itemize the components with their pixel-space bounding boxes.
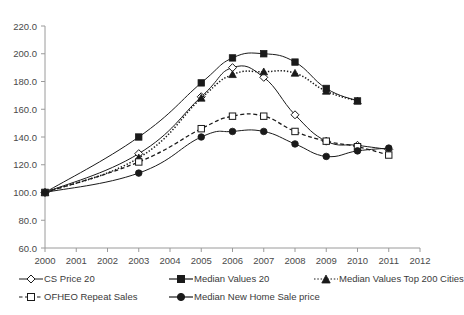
x-tick-label: 2005 <box>191 255 212 266</box>
marker-filled-square <box>292 59 298 65</box>
marker-open-square <box>136 159 142 165</box>
legend-row-2: OFHEO Repeat Sales Median New Home Sale … <box>18 290 320 304</box>
chart-legend: CS Price 20 Median Values 20 Median Valu… <box>0 268 431 315</box>
legend-item-cs-price-20[interactable]: CS Price 20 <box>18 272 168 286</box>
marker-filled-square <box>229 55 235 61</box>
legend-item-ofheo-repeat-sales[interactable]: OFHEO Repeat Sales <box>18 290 168 304</box>
marker-filled-circle <box>323 153 330 160</box>
legend-key-filled-triangle-icon <box>313 273 339 285</box>
marker-filled-circle <box>198 134 205 141</box>
x-tick-label: 2006 <box>222 255 243 266</box>
marker-filled-circle <box>135 170 142 177</box>
marker-open-square <box>386 152 392 158</box>
series-line <box>45 53 358 193</box>
x-tick-label: 2000 <box>34 255 55 266</box>
marker-filled-circle <box>260 128 267 135</box>
marker-filled-circle <box>354 148 361 155</box>
y-tick-label: 120.0 <box>13 159 37 170</box>
marker-open-square <box>198 125 204 131</box>
y-tick-label: 200.0 <box>13 48 37 59</box>
legend-key-filled-circle-icon <box>168 291 194 303</box>
legend-item-median-values-top-200-cities[interactable]: Median Values Top 200 Cities <box>313 272 464 286</box>
legend-label: CS Price 20 <box>44 273 95 285</box>
legend-key-open-diamond-icon <box>18 273 44 285</box>
legend-row-1: CS Price 20 Median Values 20 Median Valu… <box>18 272 464 286</box>
x-tick-label: 2002 <box>97 255 118 266</box>
y-tick-label: 160.0 <box>13 104 37 115</box>
y-tick-label: 140.0 <box>13 132 37 143</box>
legend-label: OFHEO Repeat Sales <box>44 291 137 303</box>
marker-filled-circle <box>42 189 49 196</box>
marker-open-square <box>323 138 329 144</box>
marker-filled-triangle <box>260 68 268 75</box>
legend-key-open-square-icon <box>18 291 44 303</box>
y-tick-label: 180.0 <box>13 76 37 87</box>
series-4 <box>42 128 392 196</box>
legend-label: Median Values 20 <box>194 273 269 285</box>
y-tick-label: 220.0 <box>13 21 37 32</box>
marker-filled-square <box>198 80 204 86</box>
x-tick-label: 2011 <box>379 255 399 266</box>
y-tick-label: 80.0 <box>19 215 38 226</box>
marker-open-square <box>261 113 267 119</box>
marker-filled-circle <box>229 128 236 135</box>
x-tick-label: 2009 <box>316 255 337 266</box>
series-line <box>45 66 389 193</box>
series-3 <box>42 113 392 196</box>
x-tick-label: 2001 <box>66 255 87 266</box>
y-tick-label: 100.0 <box>13 187 37 198</box>
marker-open-square <box>229 113 235 119</box>
x-tick-label: 2008 <box>284 255 305 266</box>
series-line <box>45 130 389 193</box>
marker-open-square <box>292 128 298 134</box>
marker-filled-square <box>261 51 267 57</box>
marker-filled-triangle <box>229 71 237 78</box>
legend-label: Median New Home Sale price <box>194 291 320 303</box>
x-tick-label: 2007 <box>253 255 274 266</box>
y-tick-label: 60.0 <box>19 243 38 254</box>
marker-filled-triangle <box>291 69 299 76</box>
x-tick-label: 2010 <box>347 255 368 266</box>
x-tick-label: 2003 <box>128 255 149 266</box>
marker-filled-circle <box>385 145 392 152</box>
legend-label: Median Values Top 200 Cities <box>339 273 464 285</box>
legend-key-filled-square-icon <box>168 273 194 285</box>
marker-filled-square <box>136 134 142 140</box>
marker-filled-circle <box>292 141 299 148</box>
series-1 <box>42 51 361 196</box>
x-tick-label: 2012 <box>409 255 430 266</box>
x-tick-label: 2004 <box>159 255 180 266</box>
legend-item-median-values-20[interactable]: Median Values 20 <box>168 272 313 286</box>
series-line <box>45 114 389 193</box>
legend-item-median-new-home-sale-price[interactable]: Median New Home Sale price <box>168 290 320 304</box>
